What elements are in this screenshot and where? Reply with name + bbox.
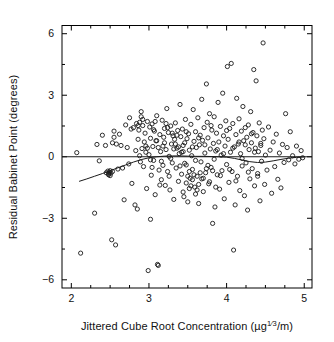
data-point: [158, 183, 162, 187]
data-point: [195, 188, 199, 192]
data-point: [159, 159, 163, 163]
data-point: [250, 167, 254, 171]
data-point: [210, 128, 214, 132]
data-point: [143, 131, 147, 135]
data-point: [163, 183, 167, 187]
y-tick-label: 3: [48, 89, 54, 101]
data-point: [204, 82, 208, 86]
data-point: [216, 100, 220, 104]
data-point: [237, 117, 241, 121]
data-point: [258, 199, 262, 203]
y-tick-label: −3: [42, 212, 54, 224]
data-point: [160, 118, 164, 122]
data-point: [239, 129, 243, 133]
data-point: [193, 192, 197, 196]
data-point: [273, 164, 277, 168]
data-point: [168, 188, 172, 192]
data-point: [127, 116, 131, 120]
data-point: [277, 151, 281, 155]
data-point: [252, 67, 256, 71]
y-axis-title: Residual Babinet Point (degrees): [7, 75, 19, 240]
data-point: [265, 168, 269, 172]
x-axis-title-exponent: 1⁄3: [267, 319, 277, 328]
data-point: [279, 186, 283, 190]
data-point: [233, 203, 237, 207]
data-point: [234, 133, 238, 137]
data-point: [75, 151, 79, 155]
data-point: [248, 177, 252, 181]
data-point: [181, 190, 185, 194]
data-point: [157, 168, 161, 172]
data-point: [231, 121, 235, 125]
data-point: [211, 141, 215, 145]
data-point: [150, 165, 154, 169]
data-point: [187, 169, 191, 173]
data-point: [205, 120, 209, 124]
data-point: [199, 160, 203, 164]
data-point: [235, 96, 239, 100]
data-point: [252, 184, 256, 188]
data-point: [202, 126, 206, 130]
data-point: [178, 164, 182, 168]
data-point: [276, 177, 280, 181]
data-point: [159, 150, 163, 154]
data-point: [270, 191, 274, 195]
axis-tick-labels: 2345630−3−6: [42, 27, 307, 304]
data-point: [225, 128, 229, 132]
data-point: [213, 205, 217, 209]
data-point: [231, 248, 235, 252]
plot-canvas: 2345630−3−6 Residual Babinet Point (degr…: [0, 0, 334, 342]
data-point: [221, 134, 225, 138]
data-point: [212, 157, 216, 161]
data-point: [93, 211, 97, 215]
data-point: [159, 178, 163, 182]
data-point: [220, 169, 224, 173]
data-point: [218, 124, 222, 128]
data-point: [241, 104, 245, 108]
data-point: [193, 130, 197, 134]
data-point: [204, 171, 208, 175]
data-point: [299, 149, 303, 153]
data-point: [200, 97, 204, 101]
x-tick-label: 2: [68, 292, 74, 304]
data-point: [225, 162, 229, 166]
data-point: [95, 142, 99, 146]
x-axis-title: Jittered Cube Root Concentration (µg1⁄3/…: [81, 319, 293, 332]
data-point: [79, 251, 83, 255]
data-point: [211, 221, 215, 225]
data-point: [146, 268, 150, 272]
data-point: [255, 134, 259, 138]
data-point: [136, 137, 140, 141]
x-tick-label: 4: [224, 292, 230, 304]
data-point: [222, 197, 226, 201]
data-point: [243, 143, 247, 147]
y-tick-label: −6: [42, 273, 54, 285]
data-point: [180, 127, 184, 131]
data-point: [140, 146, 144, 150]
data-point: [242, 194, 246, 198]
data-point: [274, 132, 278, 136]
data-point: [203, 143, 207, 147]
data-point: [280, 142, 284, 146]
data-point: [238, 188, 242, 192]
data-point: [193, 158, 197, 162]
data-point: [268, 148, 272, 152]
data-point: [165, 106, 169, 110]
data-point: [153, 119, 157, 123]
data-point: [185, 137, 189, 141]
data-point: [103, 143, 107, 147]
data-point: [119, 143, 123, 147]
data-point: [153, 193, 157, 197]
data-point: [203, 151, 207, 155]
data-point: [124, 123, 128, 127]
data-point: [271, 140, 275, 144]
data-point: [262, 137, 266, 141]
data-point: [208, 147, 212, 151]
data-point: [145, 186, 149, 190]
x-tick-label: 5: [301, 292, 307, 304]
data-point: [141, 164, 145, 168]
data-point: [178, 102, 182, 106]
data-point: [113, 243, 117, 247]
data-point: [100, 133, 104, 137]
data-point: [179, 172, 183, 176]
